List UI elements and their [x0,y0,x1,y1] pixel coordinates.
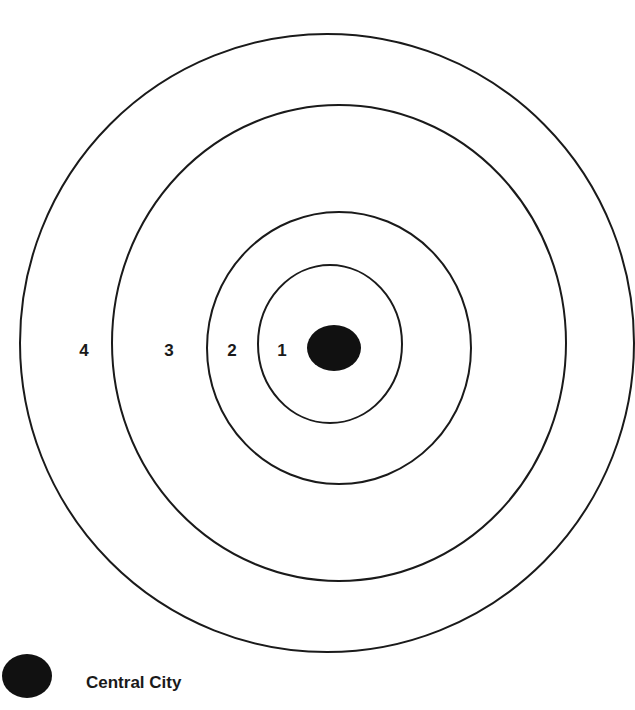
zone-labels: 4 3 2 1 [79,341,286,360]
zone-label-4: 4 [79,341,89,360]
concentric-zone-diagram: 4 3 2 1 [0,0,635,710]
zone-label-2: 2 [227,341,236,360]
zone-label-3: 3 [164,341,173,360]
legend-central-city-icon [2,654,52,698]
zone-label-1: 1 [277,341,286,360]
legend-central-city-label: Central City [86,673,181,693]
central-city-dot [307,325,361,371]
